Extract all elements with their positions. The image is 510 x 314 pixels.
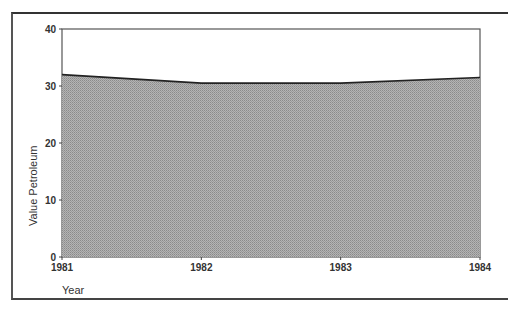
area-fill xyxy=(62,75,480,257)
x-axis: 1981198219831984 xyxy=(51,257,492,273)
x-tick-label: 1982 xyxy=(190,262,213,273)
y-tick-label: 30 xyxy=(45,81,57,92)
y-axis: 010203040 xyxy=(45,24,62,263)
y-tick-label: 20 xyxy=(45,138,57,149)
y-tick-label: 40 xyxy=(45,24,57,35)
y-axis-label: Value Petroleum xyxy=(27,145,39,226)
area-chart: 010203040 1981198219831984 Value Petrole… xyxy=(0,0,510,314)
x-tick-label: 1981 xyxy=(51,262,74,273)
x-axis-label: Year xyxy=(62,284,85,296)
plot-area xyxy=(62,29,480,257)
x-tick-label: 1983 xyxy=(330,262,353,273)
x-tick-label: 1984 xyxy=(469,262,492,273)
y-tick-label: 10 xyxy=(45,195,57,206)
